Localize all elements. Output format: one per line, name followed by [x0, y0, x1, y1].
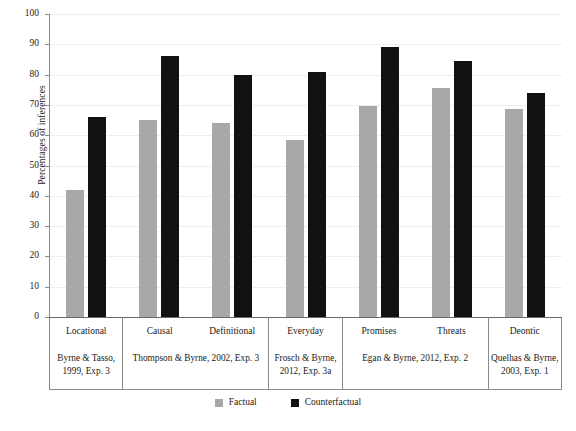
bar-chart-figure: Percentages of inferences 10090807060504…	[0, 0, 576, 431]
plot-area	[49, 14, 562, 318]
category-label-promises: Promises	[343, 327, 415, 337]
bar-deontic-counterfactual	[527, 93, 545, 317]
y-axis-tick-label: 0	[9, 312, 39, 322]
gridline	[50, 287, 562, 288]
category-citation: Egan & Byrne, 2012, Exp. 2	[343, 346, 488, 389]
category-group: EverydayFrosch & Byrne, 2012, Exp. 3a	[269, 318, 342, 389]
bar-causal-counterfactual	[161, 56, 179, 317]
gridline	[50, 75, 562, 76]
y-axis-tick-label: 90	[9, 39, 39, 49]
y-axis-tick-label: 100	[9, 9, 39, 19]
gridline	[50, 14, 562, 15]
y-axis-tick	[45, 226, 49, 227]
chart-legend: FactualCounterfactual	[0, 398, 576, 408]
gridline	[50, 135, 562, 136]
bar-locational-factual	[66, 190, 84, 317]
y-axis-tick	[45, 166, 49, 167]
category-citation: Quelhas & Byrne, 2003, Exp. 1	[489, 346, 561, 389]
bar-locational-counterfactual	[88, 117, 106, 317]
category-citation: Thompson & Byrne, 2002, Exp. 3	[123, 346, 268, 389]
y-axis-tick	[45, 44, 49, 45]
category-name-row: CausalDefinitional	[123, 318, 268, 346]
bar-definitional-factual	[212, 123, 230, 317]
category-name-row: Deontic	[489, 318, 561, 346]
category-citation: Frosch & Byrne, 2012, Exp. 3a	[269, 346, 341, 389]
bar-promises-counterfactual	[381, 47, 399, 317]
y-axis-tick-label: 60	[9, 130, 39, 140]
y-axis-tick-label: 50	[9, 161, 39, 171]
bar-deontic-factual	[505, 109, 523, 317]
category-label-everyday: Everyday	[269, 327, 341, 337]
category-name-row: Everyday	[269, 318, 341, 346]
bar-promises-factual	[359, 106, 377, 317]
y-axis-tick-label: 80	[9, 70, 39, 80]
legend-swatch-icon	[291, 399, 299, 407]
category-label-table: LocationalByrne & Tasso, 1999, Exp. 3Cau…	[49, 318, 562, 390]
category-citation: Byrne & Tasso, 1999, Exp. 3	[50, 346, 122, 389]
bar-threats-counterfactual	[454, 61, 472, 317]
y-axis-tick-label: 40	[9, 191, 39, 201]
y-axis-tick-label: 10	[9, 282, 39, 292]
category-name-row: PromisesThreats	[343, 318, 488, 346]
gridline	[50, 166, 562, 167]
gridline	[50, 256, 562, 257]
y-axis-tick-label: 70	[9, 100, 39, 110]
category-group: PromisesThreatsEgan & Byrne, 2012, Exp. …	[343, 318, 489, 389]
bar-threats-factual	[432, 88, 450, 317]
y-axis-tick	[45, 75, 49, 76]
category-name-row: Locational	[50, 318, 122, 346]
category-label-threats: Threats	[415, 327, 487, 337]
gridline	[50, 226, 562, 227]
category-label-locational: Locational	[50, 327, 122, 337]
bar-everyday-counterfactual	[308, 72, 326, 317]
y-axis-tick	[45, 135, 49, 136]
category-label-deontic: Deontic	[489, 327, 561, 337]
y-axis-tick	[45, 105, 49, 106]
y-axis-tick-label: 30	[9, 221, 39, 231]
category-group: DeonticQuelhas & Byrne, 2003, Exp. 1	[489, 318, 561, 389]
gridline	[50, 196, 562, 197]
legend-entry-factual: Factual	[215, 398, 257, 408]
y-axis-tick	[45, 196, 49, 197]
bar-definitional-counterfactual	[234, 75, 252, 317]
bar-everyday-factual	[286, 140, 304, 317]
bar-causal-factual	[139, 120, 157, 317]
y-axis-tick	[45, 14, 49, 15]
legend-swatch-icon	[215, 399, 223, 407]
category-group: CausalDefinitionalThompson & Byrne, 2002…	[123, 318, 269, 389]
legend-label: Counterfactual	[305, 398, 361, 408]
gridline	[50, 105, 562, 106]
category-group: LocationalByrne & Tasso, 1999, Exp. 3	[50, 318, 123, 389]
category-label-causal: Causal	[123, 327, 195, 337]
category-label-definitional: Definitional	[196, 327, 268, 337]
y-axis-tick	[45, 256, 49, 257]
y-axis-tick	[45, 287, 49, 288]
legend-label: Factual	[229, 398, 257, 408]
gridline	[50, 44, 562, 45]
y-axis-tick-label: 20	[9, 251, 39, 261]
legend-entry-counterfactual: Counterfactual	[291, 398, 361, 408]
